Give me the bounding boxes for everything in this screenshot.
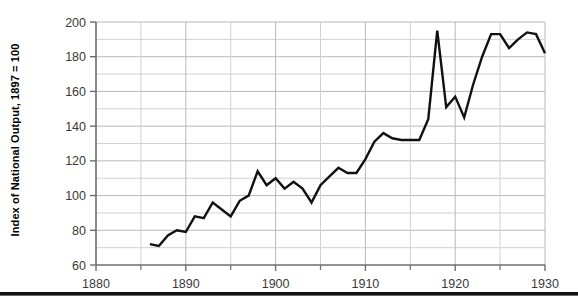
y-tick-label: 60 xyxy=(72,259,86,273)
y-tick-label: 200 xyxy=(65,16,86,30)
data-series-line xyxy=(150,31,545,246)
x-tick-label: 1880 xyxy=(82,277,110,291)
x-tick-label: 1930 xyxy=(531,277,559,291)
bottom-divider xyxy=(0,292,578,296)
x-tick-label: 1920 xyxy=(441,277,469,291)
y-tick-label: 180 xyxy=(65,50,86,64)
y-axis-ticks xyxy=(90,22,96,265)
x-tick-label: 1890 xyxy=(172,277,200,291)
y-tick-label: 140 xyxy=(65,120,86,134)
y-tick-label: 100 xyxy=(65,189,86,203)
series-line-index-of-national-output xyxy=(150,31,545,246)
x-tick-label: 1910 xyxy=(351,277,379,291)
chart-figure: Index of National Output, 1897 = 100 608… xyxy=(0,0,578,306)
x-tick-label: 1900 xyxy=(262,277,290,291)
y-tick-label: 120 xyxy=(65,154,86,168)
x-axis-ticks xyxy=(96,265,545,271)
x-tick-labels: 188018901900191019201930 xyxy=(82,277,559,291)
line-chart-plot: 6080100120140160180200 18801890190019101… xyxy=(0,0,578,306)
y-tick-label: 80 xyxy=(72,224,86,238)
y-tick-label: 160 xyxy=(65,85,86,99)
y-tick-labels: 6080100120140160180200 xyxy=(65,16,86,273)
